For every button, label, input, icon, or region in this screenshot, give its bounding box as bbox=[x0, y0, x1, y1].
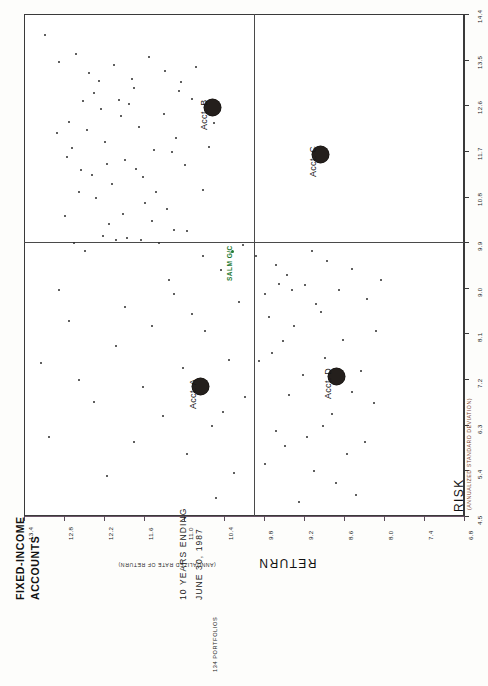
return-tick-label: 11.6 bbox=[147, 527, 154, 540]
risk-tick-label: 7.2 bbox=[476, 379, 483, 389]
return-tick bbox=[384, 516, 385, 521]
risk-tick bbox=[464, 242, 469, 243]
risk-tick-label: 12.6 bbox=[476, 101, 483, 114]
scatter-point bbox=[135, 168, 137, 170]
scatter-point bbox=[80, 169, 82, 171]
scatter-point bbox=[342, 339, 344, 341]
scatter-point bbox=[275, 430, 277, 432]
scatter-point bbox=[275, 264, 277, 266]
scatter-point bbox=[335, 482, 337, 484]
risk-tick-label: 6.3 bbox=[476, 424, 483, 434]
return-tick-label: 9.8 bbox=[267, 530, 274, 540]
scatter-point bbox=[158, 242, 160, 244]
scatter-point bbox=[115, 239, 117, 241]
scatter-point bbox=[271, 352, 273, 354]
account-label: Acct. A bbox=[188, 379, 198, 409]
scatter-point bbox=[138, 126, 140, 128]
scatter-point bbox=[322, 425, 324, 427]
scatter-point bbox=[211, 425, 213, 427]
scatter-point bbox=[118, 99, 120, 101]
return-tick bbox=[104, 516, 105, 521]
scatter-point bbox=[171, 151, 173, 153]
risk-tick bbox=[464, 14, 469, 15]
return-axis: 13.412.812.211.611.010.49.89.28.68.07.46… bbox=[24, 516, 464, 546]
risk-tick-label: 8.1 bbox=[476, 333, 483, 343]
scatter-point bbox=[140, 239, 142, 241]
scatter-point bbox=[93, 92, 95, 94]
risk-axis-subtitle: (ANNUALIZED STANDARD DEVIATION) bbox=[466, 398, 472, 510]
scatter-point bbox=[78, 379, 80, 381]
page-title-line2: ACCOUNTS bbox=[29, 536, 41, 600]
chart-page: Acct. AAcct. BAcct. CAcct. DSALM G/C 4.5… bbox=[0, 0, 488, 686]
return-axis-spine bbox=[24, 516, 464, 517]
account-label: Acct. B bbox=[199, 99, 209, 130]
account-label: Acct. C bbox=[308, 146, 318, 177]
scatter-point bbox=[302, 374, 304, 376]
scatter-point bbox=[351, 268, 353, 270]
risk-tick-label: 4.5 bbox=[476, 515, 483, 525]
return-tick bbox=[264, 516, 265, 521]
scatter-point bbox=[355, 494, 357, 496]
risk-tick bbox=[464, 151, 469, 152]
scatter-point bbox=[293, 325, 295, 327]
risk-tick-label: 13.5 bbox=[476, 55, 483, 68]
scatter-point bbox=[351, 391, 353, 393]
page-title-line1: FIXED-INCOME bbox=[14, 516, 26, 600]
scatter-point bbox=[320, 311, 322, 313]
plot-frame bbox=[24, 14, 464, 516]
scatter-point bbox=[133, 87, 135, 89]
return-tick bbox=[144, 516, 145, 521]
scatter-point bbox=[95, 197, 97, 199]
scatter-point bbox=[173, 229, 175, 231]
risk-axis-title: RISK bbox=[452, 478, 466, 512]
scatter-point bbox=[238, 301, 240, 303]
scatter-point bbox=[82, 100, 84, 102]
scatter-point bbox=[93, 401, 95, 403]
return-tick-label: 10.4 bbox=[227, 527, 234, 540]
scatter-point bbox=[298, 501, 300, 503]
scatter-point bbox=[142, 386, 144, 388]
risk-tick bbox=[464, 379, 469, 380]
quadrant-line-vertical bbox=[254, 14, 255, 516]
return-tick bbox=[344, 516, 345, 521]
return-tick bbox=[224, 516, 225, 521]
scatter-point bbox=[331, 413, 333, 415]
scatter-point bbox=[98, 80, 100, 82]
return-tick bbox=[64, 516, 65, 521]
portfolio-count-label: 134 PORTFOLIOS bbox=[212, 617, 218, 672]
scatter-point bbox=[278, 283, 280, 285]
scatter-point bbox=[162, 415, 164, 417]
scatter-point bbox=[213, 122, 215, 124]
scatter-point bbox=[173, 293, 175, 295]
risk-axis-spine bbox=[464, 14, 465, 516]
scatter-point bbox=[380, 279, 382, 281]
scatter-point bbox=[242, 244, 244, 246]
scatter-point bbox=[375, 330, 377, 332]
scatter-point bbox=[282, 340, 284, 342]
risk-tick-label: 10.8 bbox=[476, 192, 483, 205]
page-subtitle-line2: JUNE 30, 1987 bbox=[194, 528, 204, 600]
page-subtitle-line1: 10 YEARS ENDING bbox=[178, 508, 188, 600]
return-tick-label: 6.8 bbox=[467, 530, 474, 540]
return-tick bbox=[464, 516, 465, 521]
scatter-point bbox=[113, 64, 115, 66]
risk-tick bbox=[464, 333, 469, 334]
scatter-point bbox=[178, 90, 180, 92]
return-tick-label: 12.8 bbox=[67, 527, 74, 540]
quadrant-line-horizontal bbox=[24, 242, 464, 243]
scatter-point bbox=[182, 367, 184, 369]
scatter-point bbox=[151, 325, 153, 327]
return-tick-label: 9.2 bbox=[307, 530, 314, 540]
return-tick-label: 8.0 bbox=[387, 530, 394, 540]
scatter-point bbox=[131, 78, 133, 80]
risk-tick bbox=[464, 105, 469, 106]
return-tick-label: 7.4 bbox=[427, 530, 434, 540]
risk-tick-label: 9.0 bbox=[476, 287, 483, 297]
risk-tick-label: 9.9 bbox=[476, 242, 483, 252]
scatter-point bbox=[222, 411, 224, 413]
scatter-point bbox=[315, 303, 317, 305]
scatter-point bbox=[58, 61, 60, 63]
scatter-point bbox=[151, 220, 153, 222]
scatter-point bbox=[153, 149, 155, 151]
scatter-point bbox=[233, 472, 235, 474]
